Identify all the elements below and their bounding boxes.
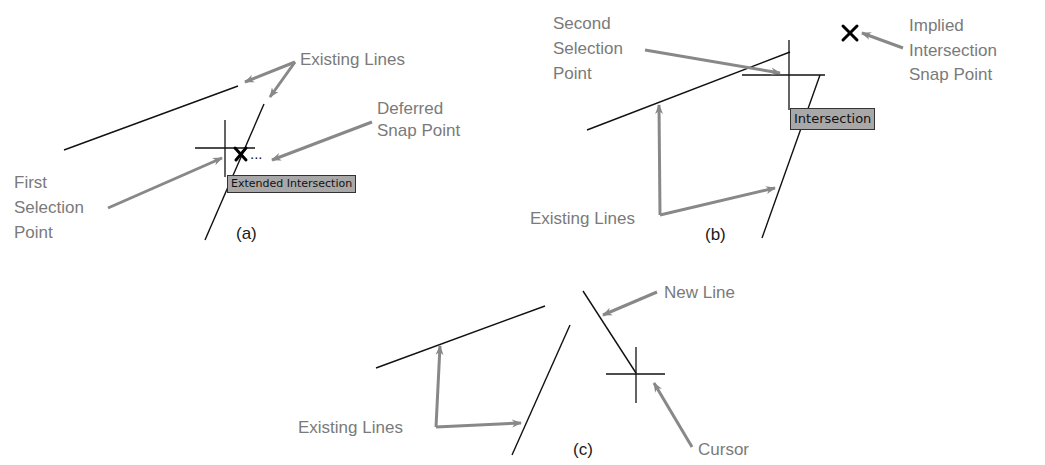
label-second-selection-3: Point <box>553 62 592 86</box>
label-first-selection-2: Selection <box>14 196 84 220</box>
existing-line-b2 <box>762 75 820 238</box>
tooltip-intersection: Intersection <box>790 108 875 130</box>
ellipsis-a: ... <box>250 145 263 162</box>
caption-c: (c) <box>573 440 593 460</box>
arrow-second-selection <box>645 50 780 73</box>
label-deferred-snap-1: Deferred <box>377 97 443 121</box>
caption-a: (a) <box>236 224 257 244</box>
label-existing-lines-b: Existing Lines <box>530 207 635 231</box>
label-first-selection-1: First <box>14 171 47 195</box>
existing-line-a2 <box>205 104 264 240</box>
label-existing-lines-a: Existing Lines <box>300 48 405 72</box>
arrow-existing-lines-b <box>659 105 660 215</box>
arrow-implied-snap <box>862 33 903 48</box>
arrow-existing-lines-c2 <box>436 423 521 427</box>
arrow-existing-lines-b2 <box>660 188 775 215</box>
arrow-first-selection <box>108 158 222 208</box>
intersection-snap-diagram <box>0 0 1045 465</box>
tooltip-extended-intersection: Extended Intersection <box>227 175 356 193</box>
arrow-cursor <box>654 383 692 447</box>
label-second-selection-1: Second <box>553 12 611 36</box>
label-implied-2: Intersection <box>909 39 997 63</box>
label-new-line: New Line <box>664 281 735 305</box>
label-cursor: Cursor <box>698 438 749 462</box>
label-first-selection-3: Point <box>14 221 53 245</box>
label-deferred-snap-2: Snap Point <box>377 119 460 143</box>
existing-line-c2 <box>512 325 570 455</box>
label-existing-lines-c: Existing Lines <box>298 416 403 440</box>
implied-snap-x-marker <box>843 26 857 40</box>
arrow-deferred-snap <box>272 122 372 160</box>
label-second-selection-2: Selection <box>553 37 623 61</box>
crosshair-cursor-b <box>742 40 825 110</box>
label-implied-3: Snap Point <box>909 63 992 87</box>
crosshair-cursor-c <box>606 347 665 403</box>
arrow-new-line <box>603 292 657 315</box>
label-implied-1: Implied <box>909 14 964 38</box>
caption-b: (b) <box>705 225 726 245</box>
existing-line-a1 <box>64 86 238 150</box>
panel-c <box>376 291 692 455</box>
arrow-existing-lines-c1 <box>436 346 440 427</box>
existing-line-b1 <box>587 52 790 130</box>
panel-a <box>64 62 372 240</box>
existing-line-c1 <box>376 306 545 368</box>
